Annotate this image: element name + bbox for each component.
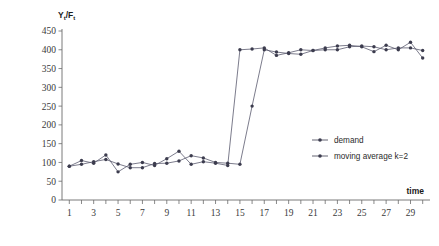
data-point	[421, 56, 424, 59]
y-axis-tick-label: 400	[42, 45, 57, 55]
data-point	[202, 160, 205, 163]
data-point	[238, 163, 241, 166]
data-point	[287, 52, 290, 55]
data-point	[226, 162, 229, 165]
x-axis-tick-label: 1	[67, 208, 72, 218]
data-point	[129, 163, 132, 166]
data-point	[409, 41, 412, 44]
data-point	[141, 166, 144, 169]
data-point	[129, 166, 132, 169]
x-axis-tick-label: 5	[116, 208, 121, 218]
data-point	[299, 53, 302, 56]
data-point	[421, 49, 424, 52]
data-point	[311, 49, 314, 52]
data-point	[384, 44, 387, 47]
x-axis-tick-label: 29	[406, 208, 416, 218]
x-axis-tick-label: 15	[235, 208, 245, 218]
data-point	[409, 46, 412, 49]
data-point	[80, 159, 83, 162]
x-axis-tick-label: 19	[284, 208, 294, 218]
legend-label: demand	[334, 136, 364, 145]
y-axis-tick-label: 300	[42, 83, 57, 93]
legend-marker-dot	[318, 154, 322, 158]
data-point	[104, 158, 107, 161]
x-axis-tick-label: 25	[357, 208, 367, 218]
x-axis-tick-label: 17	[260, 208, 270, 218]
data-point	[202, 156, 205, 159]
y-axis-tick-label: 450	[42, 26, 57, 36]
data-point	[348, 45, 351, 48]
y-axis-title-mid: /F	[66, 10, 74, 20]
data-point	[116, 162, 119, 165]
data-point	[165, 157, 168, 160]
chart-legend: demandmoving average k=2	[312, 136, 408, 161]
data-point	[384, 48, 387, 51]
data-point	[165, 162, 168, 165]
data-point	[275, 50, 278, 53]
data-point	[397, 46, 400, 49]
y-axis-tick-label: 50	[47, 177, 57, 187]
x-axis-tick-label: 9	[164, 208, 169, 218]
y-axis-tick-label: 0	[51, 195, 56, 205]
x-axis-tick-label: 27	[381, 208, 391, 218]
data-point	[104, 153, 107, 156]
x-axis-tick-label: 23	[333, 208, 343, 218]
legend-item-1: demand	[312, 136, 364, 145]
data-point	[372, 45, 375, 48]
x-axis-tick-label: 3	[91, 208, 96, 218]
x-axis: 1357911131517192123252729	[62, 200, 430, 218]
legend-label: moving average k=2	[334, 152, 408, 161]
chart-canvas: 050100150200250300350400450 135791113151…	[0, 0, 439, 246]
data-point	[250, 47, 253, 50]
y-axis-tick-label: 350	[42, 64, 57, 74]
data-point	[214, 161, 217, 164]
y-axis: 050100150200250300350400450	[42, 26, 62, 205]
chart-page: 050100150200250300350400450 135791113151…	[0, 0, 439, 246]
data-point	[372, 50, 375, 53]
y-axis-title-sub-2: t	[73, 15, 75, 21]
legend-item-2: moving average k=2	[312, 152, 408, 161]
data-point	[275, 54, 278, 57]
data-point	[189, 154, 192, 157]
data-point	[153, 162, 156, 165]
data-point	[177, 149, 180, 152]
x-axis-tick-label: 11	[187, 208, 196, 218]
data-point	[92, 160, 95, 163]
legend-marker-dot	[318, 138, 322, 142]
data-point	[263, 48, 266, 51]
x-axis-tick-label: 21	[308, 208, 318, 218]
data-point	[336, 44, 339, 47]
x-axis-tick-label: 7	[140, 208, 145, 218]
data-point	[80, 163, 83, 166]
y-axis-tick-label: 100	[42, 158, 57, 168]
y-axis-title: Yt/Ft	[58, 10, 75, 21]
data-point	[336, 48, 339, 51]
data-point	[360, 44, 363, 47]
y-axis-tick-label: 250	[42, 102, 57, 112]
data-point	[141, 161, 144, 164]
data-point	[238, 48, 241, 51]
data-point	[68, 165, 71, 168]
chart-series-2	[68, 44, 425, 169]
data-point	[177, 159, 180, 162]
data-point	[250, 104, 253, 107]
axis-labels-group: Yt/Fttime	[58, 10, 424, 196]
x-axis-title: time	[407, 186, 425, 196]
data-point	[324, 48, 327, 51]
y-axis-tick-label: 150	[42, 139, 57, 149]
series-line	[69, 46, 422, 168]
data-point	[299, 48, 302, 51]
data-point	[116, 170, 119, 173]
y-axis-tick-label: 200	[42, 120, 57, 130]
x-axis-tick-label: 13	[211, 208, 221, 218]
data-point	[189, 163, 192, 166]
